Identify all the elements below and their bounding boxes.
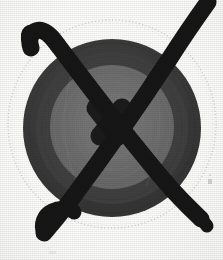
scanned-image xyxy=(0,0,223,260)
screenshot-canvas xyxy=(0,0,223,260)
